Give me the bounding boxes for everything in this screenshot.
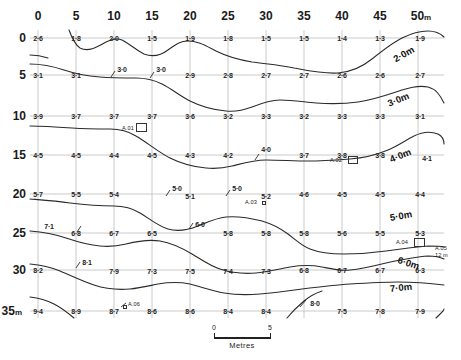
sounding: 2·9 — [185, 72, 195, 79]
sounding: 4·6 — [299, 191, 309, 198]
sounding: 1·8 — [71, 35, 81, 42]
y-axis-tick-10: 10 — [4, 109, 26, 123]
contour-sounding: 3·0 — [117, 66, 127, 73]
annotation-a06-label[interactable]: A.06 — [128, 301, 140, 307]
sounding: 2·6 — [375, 72, 385, 79]
x-axis-tick-0: 0 — [35, 9, 42, 23]
sounding: 1·4 — [337, 35, 347, 42]
annotation-a01-marker[interactable] — [136, 123, 147, 132]
sounding: 3·7 — [71, 113, 81, 120]
sounding: 3·2 — [223, 113, 233, 120]
sounding: 1·5 — [147, 35, 157, 42]
sounding: 1·3 — [375, 35, 385, 42]
sounding: 3·1 — [33, 72, 43, 79]
sounding: 6·8 — [299, 267, 309, 274]
sounding: 7·9 — [415, 308, 425, 315]
sounding: 2·0 — [109, 35, 119, 42]
contour-sounding: 5·0 — [172, 185, 182, 192]
contour-sounding: 8·0 — [310, 300, 320, 307]
scale-end-label: 5 — [268, 324, 272, 331]
sounding: 8·4 — [261, 308, 271, 315]
x-axis-tick-45: 45 — [373, 9, 386, 23]
sounding: 4·2 — [223, 152, 233, 159]
sounding: 3·7 — [299, 152, 309, 159]
sounding: 1·9 — [415, 35, 425, 42]
contour-sounding: 5·0 — [232, 185, 242, 192]
sounding: 7·9 — [109, 268, 119, 275]
sounding: 4·5 — [147, 152, 157, 159]
sounding: 6·7 — [109, 230, 119, 237]
x-axis-tick-25: 25 — [221, 9, 234, 23]
x-axis-tick-15: 15 — [145, 9, 158, 23]
y-axis-tick-20: 20 — [4, 187, 26, 201]
sounding: 5·2 — [261, 193, 271, 200]
sounding: 2·6 — [337, 72, 347, 79]
annotation-a06-marker[interactable] — [123, 305, 127, 309]
x-axis-tick-20: 20 — [183, 9, 196, 23]
sounding: 2·7 — [415, 72, 425, 79]
sounding: 8·6 — [147, 308, 157, 315]
sounding: 4·3 — [185, 152, 195, 159]
sounding: 3·7 — [147, 113, 157, 120]
sounding: 1·5 — [261, 35, 271, 42]
contour-sounding: 8·1 — [82, 259, 92, 266]
scale-caption: Metres — [229, 341, 254, 350]
annotation-a02-label[interactable]: A.02 — [330, 157, 342, 163]
annotation-a03-marker[interactable] — [262, 201, 266, 205]
contour-sounding: 6·0 — [195, 221, 205, 228]
sounding: 4·5 — [337, 191, 347, 198]
y-axis-unit: m — [15, 308, 22, 317]
y-axis-tick-15: 15 — [4, 148, 26, 162]
sounding: 3·3 — [375, 113, 385, 120]
sounding: 5·5 — [375, 230, 385, 237]
x-axis-tick-30: 30 — [259, 9, 272, 23]
sounding: 2·8 — [223, 72, 233, 79]
sounding: 4·5 — [375, 191, 385, 198]
annotation-a03-label[interactable]: A.03 — [245, 199, 257, 205]
sounding: 4·1 — [422, 155, 432, 162]
x-axis-tick-10: 10 — [107, 9, 120, 23]
sounding: 5·8 — [299, 230, 309, 237]
sounding: 8·2 — [33, 267, 43, 274]
sounding: 3·7 — [109, 113, 119, 120]
contour-5m — [30, 199, 444, 254]
x-axis-tick-35: 35 — [297, 9, 310, 23]
sounding: 5·8 — [261, 230, 271, 237]
y-axis-tick-35: 35m — [0, 304, 22, 318]
annotation-a05-depth: 12 m — [435, 252, 448, 258]
sounding: 4·5 — [33, 152, 43, 159]
sounding: 7·5 — [337, 308, 347, 315]
sounding: 6·8 — [71, 230, 81, 237]
sounding: 5·1 — [185, 193, 195, 200]
contour-top-left-edge — [30, 55, 48, 58]
x-axis-tick-50: 50m — [411, 9, 431, 23]
annotation-a04-marker[interactable] — [414, 238, 425, 247]
annotation-a01-label[interactable]: A.01 — [122, 125, 134, 131]
sounding: 5·3 — [415, 230, 425, 237]
sounding: 3·3 — [261, 113, 271, 120]
x-axis-tick-40: 40 — [335, 9, 348, 23]
sounding: 8·7 — [109, 308, 119, 315]
sounding: 3·6 — [185, 113, 195, 120]
sounding: 7·8 — [375, 308, 385, 315]
sounding: 6·7 — [375, 267, 385, 274]
sounding: 1·9 — [185, 35, 195, 42]
annotation-a02-marker[interactable] — [348, 156, 358, 164]
x-axis-tick-5: 5 — [73, 9, 80, 23]
contour-label-7m: 7·0m — [389, 281, 412, 294]
sounding: 6·7 — [337, 267, 347, 274]
annotation-a05-label[interactable]: A.05 — [435, 245, 447, 251]
y-axis-tick-0: 0 — [4, 31, 26, 45]
scale-bar-line — [214, 337, 271, 339]
y-axis-tick-5: 5 — [4, 68, 26, 82]
contour-sounding: 4·0 — [261, 146, 271, 153]
sounding: 2·7 — [261, 72, 271, 79]
sounding: 3·9 — [33, 113, 43, 120]
sounding: 8·6 — [185, 308, 195, 315]
annotation-a04-label[interactable]: A.04 — [396, 239, 408, 245]
contour-deep-right — [436, 309, 444, 318]
sounding: 4·4 — [109, 152, 119, 159]
sounding: 5·4 — [109, 191, 119, 198]
contour-4m — [30, 126, 444, 168]
sounding: 6·5 — [147, 230, 157, 237]
